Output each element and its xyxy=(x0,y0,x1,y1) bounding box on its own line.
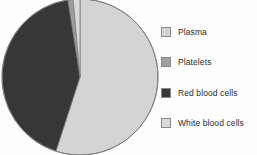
legend-item-label: Red blood cells xyxy=(178,88,238,98)
legend-item-label: Platelets xyxy=(178,57,212,67)
pie-chart-graphic xyxy=(0,0,170,155)
chart-legend: Plasma Platelets Red blood cells White b… xyxy=(161,25,257,130)
legend-item-platelets[interactable]: Platelets xyxy=(161,55,257,69)
legend-item-plasma[interactable]: Plasma xyxy=(161,25,257,39)
pie-slices xyxy=(2,0,158,155)
legend-swatch-icon xyxy=(161,118,171,128)
pie-svg xyxy=(0,0,170,155)
legend-swatch-icon xyxy=(161,57,171,67)
legend-item-label: White blood cells xyxy=(178,118,244,128)
legend-item-red-blood-cells[interactable]: Red blood cells xyxy=(161,86,257,100)
legend-swatch-icon xyxy=(161,27,171,37)
pie-chart-figure: Plasma Platelets Red blood cells White b… xyxy=(0,0,257,155)
legend-item-label: Plasma xyxy=(178,27,207,37)
legend-item-white-blood-cells[interactable]: White blood cells xyxy=(161,116,257,130)
legend-swatch-icon xyxy=(161,88,171,98)
